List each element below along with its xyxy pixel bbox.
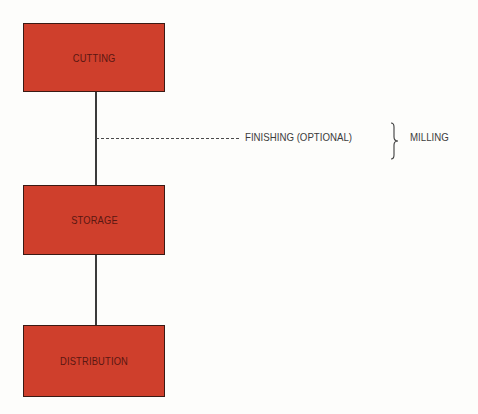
connector-storage-distribution (95, 253, 97, 326)
curly-brace-icon (388, 122, 400, 160)
finishing-dashed-branch (96, 138, 239, 139)
node-storage-label: STORAGE (71, 214, 118, 226)
milling-label: MILLING (410, 131, 449, 143)
node-distribution-label: DISTRIBUTION (60, 355, 128, 367)
finishing-label: FINISHING (OPTIONAL) (245, 131, 352, 143)
node-storage: STORAGE (23, 185, 165, 255)
node-cutting: CUTTING (23, 23, 165, 92)
node-cutting-label: CUTTING (73, 52, 116, 64)
node-distribution: DISTRIBUTION (23, 325, 165, 397)
